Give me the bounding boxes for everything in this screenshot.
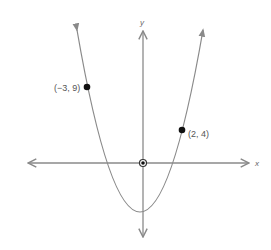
y-axis-label: y bbox=[139, 18, 145, 27]
point-neg3-9-label: (−3, 9) bbox=[54, 83, 80, 93]
point-2-4 bbox=[179, 127, 186, 134]
point-neg3-9 bbox=[84, 84, 91, 91]
parabola-diagram: x y (−3, 9) (2, 4) bbox=[0, 0, 271, 250]
parabola-curve bbox=[77, 30, 203, 212]
x-axis-label: x bbox=[254, 159, 260, 168]
point-2-4-label: (2, 4) bbox=[188, 129, 209, 139]
origin-point-center bbox=[141, 161, 145, 165]
